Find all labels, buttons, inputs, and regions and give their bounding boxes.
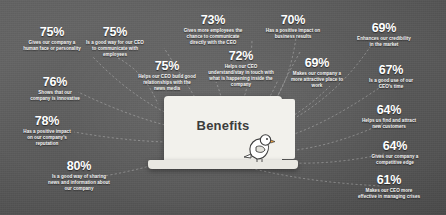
stat-description: Helps our CEO build good relationships w… xyxy=(138,74,196,92)
stat-percent: 80% xyxy=(46,160,112,173)
stat-item: 75% Helps our CEO build good relationshi… xyxy=(138,60,196,92)
stat-percent: 61% xyxy=(356,174,422,187)
stat-item: 69% Enhances our credibility in the mark… xyxy=(355,22,413,48)
stat-percent: 64% xyxy=(358,104,420,117)
stat-description: Gives more employees the chance to commu… xyxy=(180,28,246,46)
stat-item: 64% Helps us find and attract new custom… xyxy=(358,104,420,130)
stat-item: 61% Makes our CEO more effective in mana… xyxy=(356,174,422,200)
stat-item: 70% Has a positive impact on business re… xyxy=(262,14,324,40)
stat-description: Shows that our company is innovative xyxy=(28,90,82,102)
stat-description: Is a good use of our CEO's time xyxy=(362,78,420,90)
stat-item: 75% Is a good way for our CEO to communi… xyxy=(86,26,144,58)
stat-item: 64% Gives our company a competitive edge xyxy=(364,140,426,166)
stat-description: Gives our company a human face or person… xyxy=(23,40,81,52)
benefits-infographic: 75% Gives our company a human face or pe… xyxy=(0,0,446,215)
stat-percent: 69% xyxy=(355,22,413,35)
stat-percent: 67% xyxy=(362,64,420,77)
stat-item: 69% Makes our company a more attractive … xyxy=(288,57,346,89)
bird-icon xyxy=(240,126,280,166)
stat-item: 78% Has a positive impact on our company… xyxy=(20,115,74,147)
stat-percent: 75% xyxy=(86,26,144,39)
stat-description: Gives our company a competitive edge xyxy=(364,154,426,166)
stat-item: 67% Is a good use of our CEO's time xyxy=(362,64,420,90)
stat-percent: 75% xyxy=(138,60,196,73)
stat-description: Has a positive impact on business result… xyxy=(262,28,324,40)
stat-description: Is a good way of sharing news and inform… xyxy=(46,174,112,192)
stat-percent: 73% xyxy=(180,14,246,27)
laptop-icon: Benefits xyxy=(148,96,298,188)
stat-percent: 76% xyxy=(28,76,82,89)
stat-item: 75% Gives our company a human face or pe… xyxy=(23,26,81,52)
stat-description: Makes our CEO more effective in managing… xyxy=(356,188,422,200)
stat-description: Helps our CEO understand/stay in touch w… xyxy=(208,64,274,88)
stat-percent: 69% xyxy=(288,57,346,70)
stat-item: 73% Gives more employees the chance to c… xyxy=(180,14,246,46)
stat-percent: 75% xyxy=(23,26,81,39)
stat-item: 76% Shows that our company is innovative xyxy=(28,76,82,102)
stat-description: Makes our company a more attractive plac… xyxy=(288,71,346,89)
stat-description: Is a good way for our CEO to communicate… xyxy=(86,40,144,58)
stat-percent: 64% xyxy=(364,140,426,153)
stat-item: 72% Helps our CEO understand/stay in tou… xyxy=(208,50,274,88)
stat-percent: 78% xyxy=(20,115,74,128)
stat-item: 80% Is a good way of sharing news and in… xyxy=(46,160,112,192)
stat-description: Has a positive impact on our company's r… xyxy=(20,129,74,147)
stat-description: Enhances our credibility in the market xyxy=(355,36,413,48)
stat-percent: 72% xyxy=(208,50,274,63)
stat-description: Helps us find and attract new customers xyxy=(358,118,420,130)
stat-percent: 70% xyxy=(262,14,324,27)
